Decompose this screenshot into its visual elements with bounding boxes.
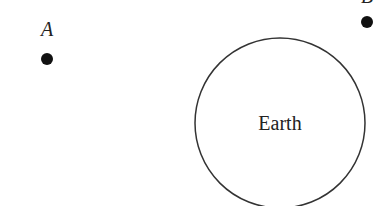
point-b-label: B xyxy=(361,0,373,7)
point-a-label: A xyxy=(39,18,54,40)
diagram-canvas: Earth A B xyxy=(0,0,386,206)
point-a-dot xyxy=(41,53,53,65)
point-b-dot xyxy=(361,16,373,28)
earth-label: Earth xyxy=(258,112,301,134)
